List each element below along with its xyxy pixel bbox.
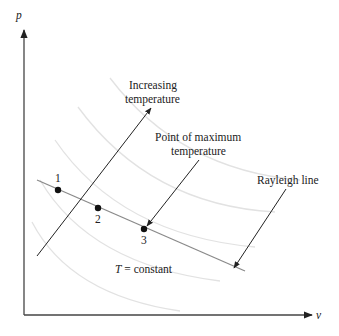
rayleigh-line — [37, 180, 245, 271]
increasing-temperature-label-1: Increasing — [129, 79, 177, 92]
increasing-temperature-label-2: temperature — [125, 93, 180, 106]
rayleigh-pointer-arrow — [234, 189, 286, 268]
max-temperature-arrow — [147, 160, 199, 226]
rayleigh-label: Rayleigh line — [257, 174, 319, 187]
isotherms — [32, 78, 300, 311]
y-axis-label: p — [15, 9, 22, 22]
point-1 — [55, 187, 61, 193]
point-2 — [95, 205, 101, 211]
point-3-label: 3 — [141, 234, 147, 246]
max-temperature-label-2: temperature — [171, 145, 226, 158]
state-points: 1 2 3 — [55, 172, 147, 246]
x-axis-label: v — [316, 309, 322, 321]
max-temperature-label-1: Point of maximum — [155, 131, 241, 143]
point-3 — [141, 226, 147, 232]
point-1-label: 1 — [55, 172, 61, 184]
isotherm-4 — [78, 107, 275, 212]
rayleigh-pv-diagram: p v Increasing temperature Point of maxi… — [0, 0, 339, 336]
point-2-label: 2 — [95, 213, 101, 225]
t-constant-label: T = constant — [115, 263, 173, 275]
